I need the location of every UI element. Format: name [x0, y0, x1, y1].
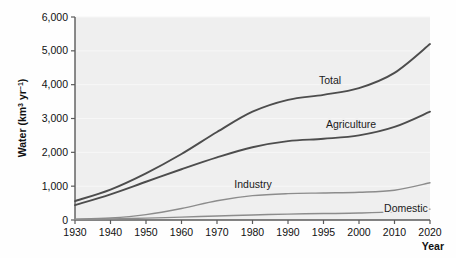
series-label-agriculture: Agriculture	[326, 118, 376, 130]
series-label-total: Total	[319, 74, 341, 86]
series-label-industry: Industry	[234, 178, 272, 190]
chart-figure: 01,0002,0003,0004,0005,0006,000 19301940…	[0, 0, 456, 258]
water-use-line-chart: 01,0002,0003,0004,0005,0006,000 19301940…	[0, 0, 456, 258]
x-tick-labels: 1930194019501960197019801990199520002010…	[63, 226, 442, 238]
y-axis-title: Water (km3 yr−1)	[16, 79, 28, 158]
x-tick-label: 1980	[241, 226, 265, 238]
y-tick-label: 6,000	[42, 11, 68, 23]
x-tick-label: 1970	[205, 226, 229, 238]
y-tick-label: 2,000	[42, 146, 68, 158]
x-tick-label: 1930	[63, 226, 87, 238]
y-tick-label: 4,000	[42, 78, 68, 90]
x-tick-label: 2020	[418, 226, 442, 238]
y-tick-label: 0	[62, 214, 68, 226]
x-tick-label: 1940	[99, 226, 123, 238]
series-label-domestic: Domestic	[384, 202, 428, 214]
x-axis-title: Year	[422, 240, 444, 252]
x-tick-label: 1950	[134, 226, 158, 238]
x-tick-label: 2000	[347, 226, 371, 238]
x-tick-label: 1960	[170, 226, 194, 238]
x-tick-label: 1995	[312, 226, 336, 238]
y-tick-label: 5,000	[42, 44, 68, 56]
y-tick-label: 1,000	[42, 180, 68, 192]
x-tick-label: 2010	[383, 226, 407, 238]
x-tick-label: 1990	[276, 226, 300, 238]
y-tick-label: 3,000	[42, 112, 68, 124]
